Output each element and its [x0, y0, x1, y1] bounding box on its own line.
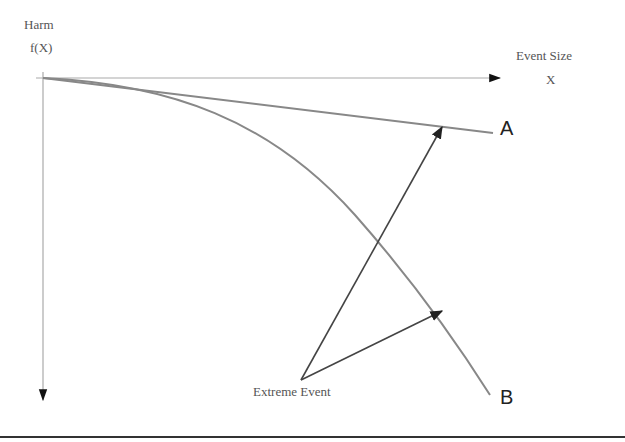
- y-axis-symbol: f(X): [30, 40, 52, 56]
- arrow-to-b: [301, 311, 442, 380]
- curve-b: [43, 78, 490, 395]
- extreme-event-label: Extreme Event: [253, 384, 331, 400]
- x-axis-symbol: X: [546, 72, 555, 88]
- harm-convexity-diagram: [0, 0, 625, 442]
- x-axis-label: Event Size: [516, 48, 572, 64]
- y-axis-label: Harm: [24, 17, 54, 33]
- curve-b-label: B: [500, 386, 513, 409]
- arrow-to-a: [301, 127, 442, 380]
- bottom-divider: [0, 436, 625, 438]
- curve-a: [43, 78, 493, 133]
- curve-a-label: A: [500, 117, 513, 140]
